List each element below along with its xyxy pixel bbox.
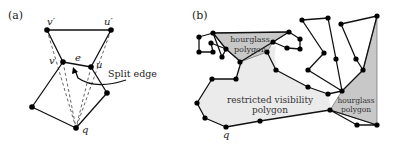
vertex-u-prime [108, 27, 114, 33]
label-u: u [96, 59, 102, 70]
polygon-boundary [32, 30, 111, 128]
panel-b: (b) [192, 9, 380, 140]
label-v: v [49, 55, 55, 66]
panel-a: (a) v′ u′ v u e q Split edge [8, 9, 157, 135]
split-edge-annotation: Split edge [108, 68, 157, 79]
vertex-q [73, 125, 79, 131]
hourglass-right-label-2: polygon [341, 105, 371, 114]
vertex [29, 104, 35, 110]
polygon-edge [336, 59, 342, 91]
restricted-visibility-label-2: polygon [252, 105, 288, 115]
hourglass-top-label-2: polygon [234, 45, 266, 54]
dashed-sightline [76, 30, 111, 128]
hourglass-right-label-1: hourglass [337, 96, 374, 105]
vertex-v [60, 59, 66, 65]
label-q-b: q [223, 129, 229, 140]
label-v-prime: v′ [47, 16, 56, 27]
label-q: q [82, 124, 88, 135]
vertex [104, 90, 110, 96]
arrow-head-icon [72, 67, 78, 74]
restricted-visibility-label-1: restricted visibility [227, 95, 314, 105]
panel-a-label: (a) [8, 9, 23, 22]
label-u-prime: u′ [104, 16, 113, 27]
vertex-u [88, 64, 94, 70]
figure: (a) v′ u′ v u e q Split edge (b) [0, 0, 396, 145]
hourglass-top-label-1: hourglass [230, 35, 270, 44]
label-e: e [75, 52, 81, 63]
panel-b-label: (b) [192, 9, 208, 22]
vertex-v-prime [44, 27, 50, 33]
